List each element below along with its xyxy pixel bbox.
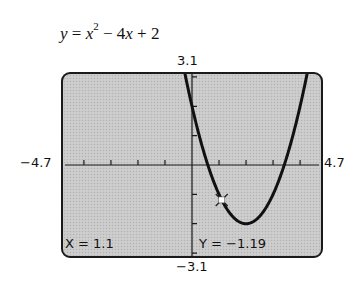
equation-x2: x — [125, 24, 133, 43]
equation-equals: = — [68, 24, 86, 43]
trace-cursor-center — [219, 197, 225, 203]
graph-plot — [63, 74, 321, 256]
function-equation: y = x2 − 4x + 2 — [60, 22, 159, 44]
y-readout: Y = −1.19 — [199, 236, 266, 251]
x-readout: X = 1.1 — [65, 236, 114, 251]
ymax-label: 3.1 — [177, 53, 198, 68]
graph-screen: X = 1.1 Y = −1.19 — [61, 72, 323, 258]
xmin-label: −4.7 — [20, 155, 52, 170]
parabola-curve — [182, 74, 309, 224]
equation-lhs: y — [60, 24, 68, 43]
ymin-label: −3.1 — [176, 259, 208, 274]
xmax-label: 4.7 — [324, 155, 345, 170]
equation-constant: + 2 — [133, 24, 160, 43]
equation-term: − 4 — [99, 24, 126, 43]
equation-exponent: 2 — [93, 20, 99, 32]
